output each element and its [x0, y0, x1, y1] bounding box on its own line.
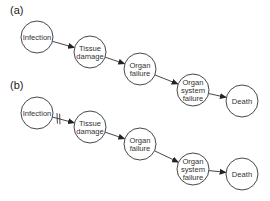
node-tissue-label: damage: [76, 127, 103, 136]
node-infection-label: Infection: [23, 109, 52, 118]
node-tissue-label: damage: [76, 52, 103, 61]
arrow-tissue-to-organ: [105, 57, 124, 64]
arrow-system-to-death: [209, 94, 226, 98]
panel-b: InfectionTissuedamageOrganfailureOrgansy…: [21, 97, 258, 190]
node-death-label: Death: [232, 170, 252, 179]
arrow-organ-to-system: [154, 151, 178, 162]
sepsis-progression-diagram: (a) (b) InfectionTissuedamageOrganfailur…: [0, 0, 270, 201]
panel-a: InfectionTissuedamageOrganfailureOrgansy…: [21, 21, 258, 117]
node-system-label: failure: [183, 94, 204, 103]
arrow-tissue-to-organ: [105, 132, 124, 139]
node-organ-label: failure: [130, 144, 151, 153]
node-system-label: failure: [183, 173, 204, 182]
node-organ-label: failure: [130, 69, 151, 78]
arrow-infection-to-tissue: [52, 41, 74, 47]
arrow-system-to-death: [209, 171, 226, 173]
arrow-infection-to-tissue: [52, 117, 74, 123]
node-death-label: Death: [232, 97, 252, 106]
arrow-organ-to-system: [155, 75, 178, 84]
node-infection-label: Infection: [23, 33, 52, 42]
diagram-canvas: InfectionTissuedamageOrganfailureOrgansy…: [0, 0, 270, 201]
